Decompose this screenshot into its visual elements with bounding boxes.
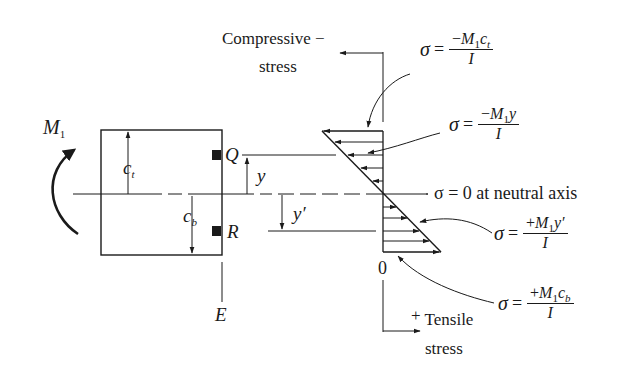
cb-label: cb bbox=[183, 206, 197, 225]
compressive-label-line2: stress bbox=[259, 58, 297, 75]
moment-label: M1 bbox=[43, 117, 65, 137]
point-r-label: R bbox=[227, 222, 239, 241]
leader-point-q bbox=[368, 133, 440, 153]
leader-bottom-fiber bbox=[398, 256, 494, 303]
y-label: y bbox=[257, 166, 265, 185]
point-r-marker bbox=[212, 226, 221, 236]
stress-distribution bbox=[322, 131, 441, 252]
ct-label: ct bbox=[123, 158, 135, 177]
origin-label: 0 bbox=[378, 259, 387, 277]
point-q-label: Q bbox=[225, 145, 239, 164]
y-prime-label: y′ bbox=[293, 204, 306, 223]
leader-point-r bbox=[420, 219, 492, 233]
tensile-label-line2: stress bbox=[425, 340, 463, 357]
tensile-label: + Tensile bbox=[411, 311, 473, 328]
point-q-marker bbox=[212, 150, 221, 160]
beam-cross-section bbox=[101, 130, 222, 255]
equation-top-fiber: σ = −M1ct I bbox=[420, 30, 493, 68]
moment-arrow-icon bbox=[53, 150, 78, 234]
leader-top-fiber bbox=[368, 74, 410, 127]
compressive-label: Compressive − bbox=[222, 30, 325, 47]
edge-e-label: E bbox=[215, 305, 227, 324]
equation-point-r: σ = +M1y′ I bbox=[494, 214, 568, 252]
equation-neutral-axis: σ = 0 at neutral axis bbox=[434, 184, 577, 202]
equation-point-q: σ = −M1y I bbox=[449, 105, 519, 143]
equation-bottom-fiber: σ = +M1cb I bbox=[498, 284, 574, 322]
